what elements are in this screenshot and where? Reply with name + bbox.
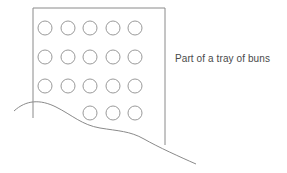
bun-circle: [83, 21, 97, 35]
bun-circle: [128, 106, 142, 120]
bun-circle: [61, 21, 75, 35]
figure-caption: Part of a tray of buns: [175, 53, 270, 65]
bun-circle: [128, 79, 142, 93]
bun-circle: [83, 79, 97, 93]
bun-circle: [61, 79, 75, 93]
surface-edge-curve: [14, 102, 196, 164]
bun-circle: [38, 21, 52, 35]
bun-row-4: [83, 106, 142, 120]
bun-circle: [128, 21, 142, 35]
bun-row-3: [38, 79, 142, 93]
bun-circle: [106, 106, 120, 120]
bun-circle: [83, 106, 97, 120]
bun-row-2: [38, 50, 142, 64]
figure-canvas: Part of a tray of buns: [0, 0, 287, 173]
bun-circle: [38, 50, 52, 64]
tray-outline: [33, 8, 165, 145]
bun-row-1: [38, 21, 142, 35]
tray-of-buns-drawing: [0, 0, 287, 173]
bun-circle: [106, 50, 120, 64]
bun-circle: [106, 79, 120, 93]
bun-circle: [38, 79, 52, 93]
bun-circle: [61, 50, 75, 64]
bun-circle: [128, 50, 142, 64]
bun-circle: [106, 21, 120, 35]
bun-circle: [83, 50, 97, 64]
